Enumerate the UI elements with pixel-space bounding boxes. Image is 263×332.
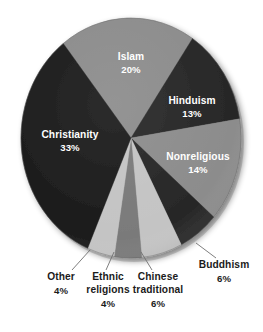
slice-label-hinduism: Hinduism bbox=[168, 95, 215, 106]
slice-label-other: Other bbox=[47, 271, 75, 282]
pie-chart-figure: Islam20%Hinduism13%Nonreligious14%Buddhi… bbox=[0, 0, 263, 332]
slice-label-islam: Islam bbox=[118, 51, 145, 62]
slice-pct-chinese-traditional: 6% bbox=[151, 298, 165, 309]
pie-chart-svg: Islam20%Hinduism13%Nonreligious14%Buddhi… bbox=[0, 0, 263, 332]
slice-pct-christianity: 33% bbox=[60, 142, 80, 153]
slice-pct-hinduism: 13% bbox=[182, 108, 202, 119]
slice-label-ethnic-religions-line2: religions bbox=[86, 284, 130, 295]
slice-label-chinese-traditional-line1: Chinese bbox=[138, 271, 179, 282]
slice-label-nonreligious: Nonreligious bbox=[166, 151, 230, 162]
slice-label-christianity: Christianity bbox=[41, 129, 98, 140]
slice-pct-islam: 20% bbox=[121, 64, 141, 75]
leader-line-other bbox=[72, 250, 90, 270]
slice-label-chinese-traditional-line2: traditional bbox=[133, 284, 183, 295]
slice-label-buddhism: Buddhism bbox=[199, 259, 250, 270]
leader-line-buddhism bbox=[196, 243, 216, 258]
slice-pct-nonreligious: 14% bbox=[188, 164, 208, 175]
slice-label-ethnic-religions-line1: Ethnic bbox=[92, 271, 124, 282]
slice-pct-other: 4% bbox=[54, 285, 68, 296]
slice-pct-ethnic-religions: 4% bbox=[101, 298, 115, 309]
slice-pct-buddhism: 6% bbox=[217, 273, 231, 284]
